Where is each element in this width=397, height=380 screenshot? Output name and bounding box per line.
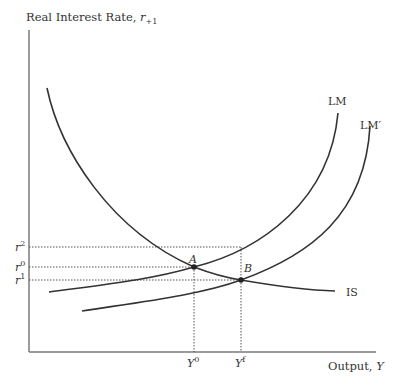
point-b-label: B: [243, 262, 252, 275]
x-axis-label: Output, Y: [328, 359, 385, 373]
point-b-marker: [238, 277, 244, 283]
lm-prime-curve: [82, 126, 370, 311]
yf-label: Yf: [235, 355, 246, 370]
y-axis-label: Real Interest Rate, r+1: [26, 10, 157, 26]
r1-label: r1: [15, 272, 25, 287]
lm-label: LM: [328, 95, 347, 108]
is-lm-diagram: Real Interest Rate, r+1 Output, Y LM LM′…: [0, 0, 397, 380]
point-a-label: A: [188, 253, 197, 266]
y0-label: Y0: [187, 355, 199, 370]
lm-prime-label: LM′: [360, 119, 382, 132]
r2-label: r2: [15, 239, 25, 254]
is-label: IS: [346, 286, 358, 299]
